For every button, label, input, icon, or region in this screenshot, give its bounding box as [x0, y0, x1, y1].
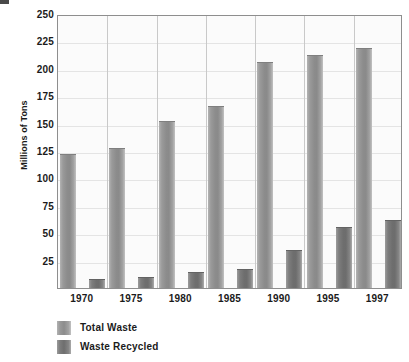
y-tick-label: 50 [0, 229, 54, 239]
y-tick-label: 250 [0, 10, 54, 20]
legend-swatch-icon [57, 340, 71, 354]
bar-total-waste [109, 148, 125, 288]
bar-waste-recycled [237, 269, 253, 288]
legend-swatch-icon [57, 321, 71, 335]
chart-legend: Total WasteWaste Recycled [57, 318, 159, 356]
bar-waste-recycled [286, 250, 302, 288]
bar-waste-recycled [188, 272, 204, 288]
x-tick-label: 1990 [254, 293, 304, 304]
x-tick-label: 1980 [155, 293, 205, 304]
legend-item: Total Waste [57, 318, 159, 337]
bar-waste-recycled [138, 277, 154, 288]
legend-label: Waste Recycled [80, 341, 159, 352]
legend-item: Waste Recycled [57, 337, 159, 356]
x-axis-ticks: 1970197519801985199019951997 [57, 293, 402, 309]
x-tick-label: 1985 [205, 293, 255, 304]
bar-total-waste [356, 48, 372, 288]
bar-total-waste [208, 106, 224, 288]
bars-layer [58, 16, 401, 288]
y-tick-label: 200 [0, 65, 54, 75]
x-tick-label: 1975 [106, 293, 156, 304]
y-tick-label: 100 [0, 174, 54, 184]
plot-area [57, 15, 402, 289]
bar-total-waste [307, 55, 323, 288]
y-tick-label: 25 [0, 257, 54, 267]
bar-chart: Millions of Tons 25022520017515012510075… [0, 0, 409, 362]
bar-total-waste [159, 121, 175, 288]
y-axis-ticks: 250225200175150125100755025 [0, 0, 54, 300]
bar-waste-recycled [336, 227, 352, 288]
x-tick-label: 1970 [57, 293, 107, 304]
x-tick-label: 1997 [352, 293, 402, 304]
y-tick-label: 175 [0, 92, 54, 102]
y-tick-label: 125 [0, 147, 54, 157]
x-tick-label: 1995 [303, 293, 353, 304]
bar-total-waste [60, 154, 76, 288]
legend-label: Total Waste [80, 322, 137, 333]
y-tick-label: 75 [0, 202, 54, 212]
bar-waste-recycled [385, 220, 401, 288]
y-tick-label: 225 [0, 37, 54, 47]
bar-waste-recycled [89, 279, 105, 288]
y-tick-label: 150 [0, 120, 54, 130]
bar-total-waste [257, 62, 273, 288]
